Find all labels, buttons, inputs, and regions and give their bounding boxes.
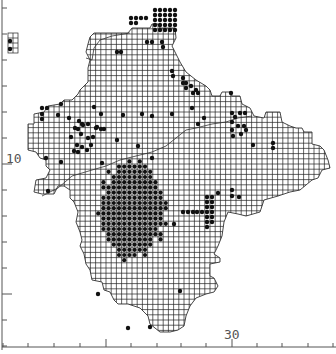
y-axis-label-10: 10 — [6, 152, 22, 165]
x-axis-label-30: 30 — [224, 328, 240, 341]
grid-cells — [0, 0, 336, 354]
grid-map-canvas — [0, 0, 336, 354]
coast-line — [86, 33, 130, 60]
axes — [2, 0, 336, 350]
distribution-map: 10 30 — [0, 0, 336, 354]
